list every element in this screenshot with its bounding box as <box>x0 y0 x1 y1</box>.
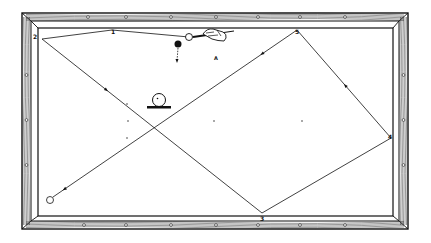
cue-ball <box>186 34 193 41</box>
diamond-marker <box>257 224 260 227</box>
diamond-marker <box>125 224 128 227</box>
diamond-marker <box>402 164 405 167</box>
diamond-marker <box>215 224 218 227</box>
diamond-marker <box>25 164 28 167</box>
diamond-marker <box>402 74 405 77</box>
final-ball-position <box>47 197 54 204</box>
billiard-diagram: 1 2 3 4 5 A <box>0 0 431 243</box>
rail-point-label-5: 5 <box>295 29 299 35</box>
diamond-marker <box>402 119 405 122</box>
table-spot <box>126 137 127 138</box>
table-spot <box>127 120 128 121</box>
diamond-marker <box>170 16 173 19</box>
diamond-marker <box>344 16 347 19</box>
diamond-marker <box>299 224 302 227</box>
object-ball <box>175 41 182 48</box>
table-spot <box>213 120 214 121</box>
table-frame <box>22 13 408 229</box>
diamond-marker <box>215 16 218 19</box>
inset-ball-contact-dot <box>157 98 159 100</box>
diamond-marker <box>25 119 28 122</box>
annotation-letter-a: A <box>214 56 218 61</box>
diamond-marker <box>170 224 173 227</box>
diamond-marker <box>25 74 28 77</box>
table-spot <box>126 103 127 104</box>
diamond-marker <box>83 224 86 227</box>
inset-ball-base <box>147 106 171 109</box>
rail-point-label-3: 3 <box>260 216 264 222</box>
diamond-marker <box>87 16 90 19</box>
diamond-marker <box>299 16 302 19</box>
rail-point-label-1: 1 <box>111 29 115 35</box>
rail-point-label-2: 2 <box>33 34 37 40</box>
rail-point-label-4: 4 <box>388 134 392 140</box>
diamond-marker <box>125 16 128 19</box>
diamond-marker <box>257 16 260 19</box>
table-spot <box>301 120 302 121</box>
table-drawing <box>0 0 431 243</box>
diamond-marker <box>344 224 347 227</box>
inset-ball-diagram <box>153 94 166 107</box>
